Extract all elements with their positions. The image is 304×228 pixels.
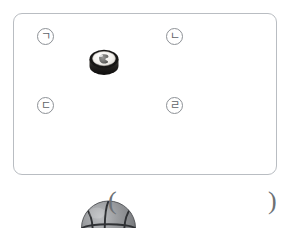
choice-option-2[interactable]: ㄴ: [146, 14, 278, 94]
sushi-roll-illustration: [88, 47, 120, 77]
multiple-choice-panel: ㄱ: [13, 13, 277, 175]
choice-marker-2-icon: ㄴ: [166, 28, 183, 45]
choice-marker-4-icon: ㄹ: [166, 97, 183, 114]
choice-option-1[interactable]: ㄱ: [14, 14, 146, 94]
answer-open-paren: (: [108, 186, 117, 216]
answer-close-paren: ): [268, 186, 277, 216]
choice-option-4[interactable]: ㄹ: [146, 94, 278, 176]
answer-blank[interactable]: ( ): [0, 186, 304, 220]
choice-marker-1-icon: ㄱ: [37, 28, 54, 45]
choice-option-3[interactable]: ㄷ: [14, 94, 146, 176]
choice-marker-3-icon: ㄷ: [37, 97, 54, 114]
